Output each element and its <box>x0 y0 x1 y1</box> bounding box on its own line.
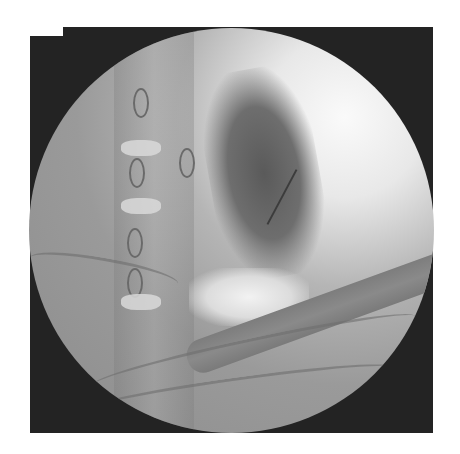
frame-notch <box>30 27 63 36</box>
disc-3 <box>121 294 161 310</box>
vertebra-5 <box>179 148 195 178</box>
disc-1 <box>121 140 161 156</box>
disc-2 <box>121 198 161 214</box>
vertebra-2 <box>129 158 145 188</box>
fluoroscopy-field <box>29 28 434 433</box>
contrast-region <box>192 60 337 286</box>
vertebra-1 <box>133 88 149 118</box>
vertebra-3 <box>127 228 143 258</box>
